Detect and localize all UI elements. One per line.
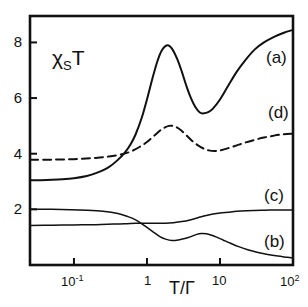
y-axis-label-tail: T — [72, 46, 85, 69]
y-tick-label-8: 8 — [4, 33, 22, 50]
y-axis-label: χST — [52, 46, 85, 73]
y-tick-label-4: 4 — [4, 145, 22, 162]
plot-canvas — [0, 0, 308, 307]
series-annotation-a: (a) — [266, 48, 287, 68]
chart-figure: 2468 10-1110102 (a)(d)(c)(b) χST T/Γ — [0, 0, 308, 307]
y-tick-label-6: 6 — [4, 89, 22, 106]
series-annotation-b: (b) — [264, 232, 285, 252]
y-tick-label-2: 2 — [4, 200, 22, 217]
x-tick-label-2: 10 — [212, 273, 226, 288]
series-annotation-c: (c) — [264, 186, 284, 206]
y-axis-label-chi: χ — [52, 46, 63, 69]
figure-background — [0, 0, 308, 307]
series-annotation-d: (d) — [268, 103, 289, 123]
x-tick-label-1: 1 — [144, 273, 151, 288]
x-tick-label-0: 10-1 — [61, 273, 83, 289]
x-tick-label-3: 102 — [280, 273, 299, 289]
x-axis-label: T/Γ — [169, 278, 195, 299]
y-axis-label-subscript: S — [63, 58, 72, 73]
